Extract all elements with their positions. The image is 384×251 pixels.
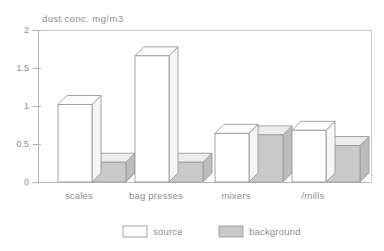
category-label-bag-presses: bag presses <box>129 190 183 201</box>
y-tick-label-1: 1 <box>24 101 29 111</box>
bar-chart: 0 0.5 1 1.5 2 dust conc. mg/m3 scales ba… <box>0 0 384 251</box>
bar-front-face <box>215 133 249 182</box>
category-label-mixers: mixers <box>221 190 250 201</box>
category-label-scales: scales <box>65 190 93 201</box>
bar-side-face <box>326 121 335 182</box>
bar-side-face <box>283 126 292 182</box>
y-tick-label-0-5: 0.5 <box>16 139 29 149</box>
bar-side-face <box>249 124 258 182</box>
legend-swatch-background <box>219 226 243 237</box>
legend-label-background: background <box>249 226 301 237</box>
bar-scales-source <box>58 95 101 182</box>
bar-mixers-source <box>215 124 258 182</box>
bars-layer <box>58 47 369 182</box>
legend-swatch-source <box>123 226 147 237</box>
chart-container: 0 0.5 1 1.5 2 dust conc. mg/m3 scales ba… <box>0 0 384 251</box>
axis-title: dust conc. mg/m3 <box>42 13 123 24</box>
bar-side-face <box>169 47 178 182</box>
y-tick-label-1-5: 1.5 <box>16 63 29 73</box>
category-label-mills: /mills <box>302 190 325 201</box>
bar-mills-source <box>292 121 335 182</box>
bar-bagpresses-source <box>135 47 178 182</box>
legend-label-source: source <box>153 226 183 237</box>
y-tick-label-2: 2 <box>24 25 29 35</box>
bar-side-face <box>92 95 101 182</box>
bar-front-face <box>135 56 169 182</box>
bar-front-face <box>292 130 326 182</box>
legend: source background <box>123 226 301 237</box>
bar-front-face <box>58 104 92 182</box>
y-tick-label-0: 0 <box>24 177 29 187</box>
